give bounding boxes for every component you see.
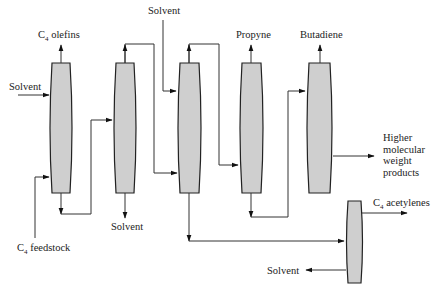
- c4-olefins-label: C4 olefins: [38, 29, 80, 43]
- higher-products-label: Higher molecular weight products: [383, 132, 428, 178]
- propyne-label: Propyne: [236, 29, 271, 40]
- c4-acetylenes-label: C4 acetylenes: [373, 197, 430, 211]
- solvent-outlet-2-label: Solvent: [111, 221, 143, 232]
- solvent-outlet-6-label: Solvent: [267, 265, 299, 276]
- solvent-inlet-3-arrow: [163, 20, 176, 91]
- c4-feedstock-label: C4 feedstock: [17, 242, 71, 256]
- column-4: [240, 63, 263, 193]
- process-flow-diagram: C4 olefins Solvent C4 feedstock Solvent …: [0, 0, 435, 292]
- solvent-inlet-1-label: Solvent: [9, 81, 41, 92]
- column-1: [50, 63, 72, 193]
- butadiene-label: Butadiene: [300, 29, 343, 40]
- column-2: [114, 63, 136, 193]
- solvent-inlet-3-label: Solvent: [148, 5, 180, 16]
- column-6: [347, 201, 363, 283]
- column-3: [178, 63, 201, 193]
- feedstock-inlet-arrow: [35, 177, 49, 238]
- column-5: [307, 63, 332, 193]
